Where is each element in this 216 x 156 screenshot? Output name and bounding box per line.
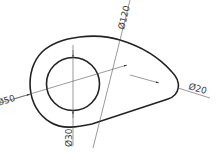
dimension-label-d30: Ø30: [64, 128, 74, 147]
dimension-label-d50: Ø50: [0, 93, 17, 108]
outer-profile: [30, 36, 178, 127]
technical-drawing: Ø50 Ø120 Ø20 Ø30: [0, 0, 216, 156]
dimension-label-d20: Ø20: [187, 81, 208, 96]
dimension-d50: [0, 65, 127, 103]
dimension-label-d120: Ø120: [116, 4, 132, 30]
